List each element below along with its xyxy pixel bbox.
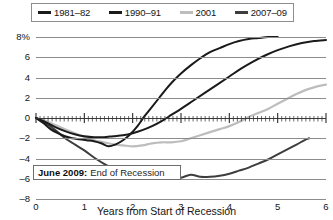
annotation-text: End of Recession <box>90 168 164 178</box>
annotation-bold-label: June 2009: <box>38 168 87 178</box>
zero-axis-ticks <box>36 113 326 124</box>
legend-label-1990-91: 1990–91 <box>125 8 161 18</box>
gridline <box>36 78 326 79</box>
chart-legend: 1981–82 1990–91 2001 2007–09 <box>31 3 294 22</box>
annotation-june-2009: June 2009: End of Recession <box>33 165 181 180</box>
legend-label-2001: 2001 <box>196 8 217 18</box>
gridline <box>36 159 326 160</box>
y-tick-label: 0 <box>2 113 30 123</box>
y-tick-label: –6 <box>2 174 30 184</box>
legend-item-1981-82[interactable]: 1981–82 <box>38 8 90 18</box>
gridline <box>36 98 326 99</box>
gridline <box>36 138 326 139</box>
legend-item-2001[interactable]: 2001 <box>180 8 217 18</box>
legend-swatch-2007-09 <box>235 11 248 14</box>
gridline <box>36 199 326 200</box>
y-tick-label: 4 <box>2 73 30 83</box>
y-tick-label: 6 <box>2 52 30 62</box>
recession-recovery-chart: 1981–82 1990–91 2001 2007–09 8%6420–2–4–… <box>0 0 333 220</box>
legend-swatch-2001 <box>180 11 193 14</box>
legend-item-2007-09[interactable]: 2007–09 <box>235 8 287 18</box>
legend-item-1990-91[interactable]: 1990–91 <box>109 8 161 18</box>
y-tick-label: 8% <box>2 32 30 42</box>
legend-label-2007-09: 2007–09 <box>251 8 287 18</box>
legend-label-1981-82: 1981–82 <box>54 8 90 18</box>
y-tick-label: –2 <box>2 133 30 143</box>
y-tick-label: 2 <box>2 93 30 103</box>
gridline <box>36 57 326 58</box>
gridline <box>36 37 326 38</box>
series-line-1981-82 <box>36 37 278 146</box>
legend-swatch-1990-91 <box>109 11 122 14</box>
legend-swatch-1981-82 <box>38 11 51 14</box>
y-tick-label: –4 <box>2 154 30 164</box>
x-axis-title: Years from Start of Recession <box>0 205 333 217</box>
